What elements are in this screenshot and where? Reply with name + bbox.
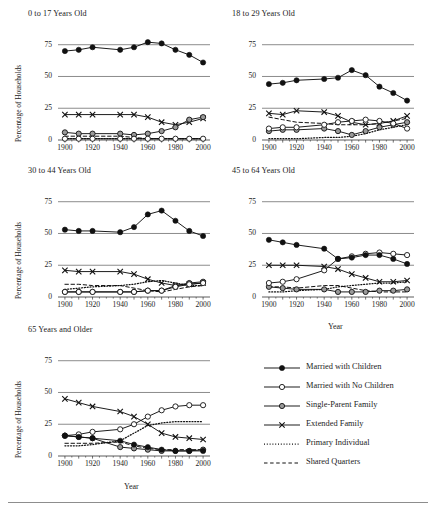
series-married-with-no-children [62,280,205,294]
x-tick-label: 1940 [310,143,338,152]
y-tick-label: 75 [236,197,256,206]
series-single-parent-family [266,284,409,294]
y-tick-label: 25 [236,103,256,112]
series-married-with-no-children [62,136,205,141]
series-primary-individual [269,282,407,292]
legend-item: Married with Children [262,360,432,376]
y-tick-label: 25 [236,260,256,269]
x-axis-label: Year [124,482,139,491]
x-tick-label: 1940 [106,459,134,468]
x-tick-label: 1960 [134,143,162,152]
x-tick-label: 1920 [79,459,107,468]
series-extended-family [62,396,206,442]
y-tick-label: 50 [32,387,52,396]
x-tick-label: 1920 [283,300,311,309]
panel-title: 18 to 29 Years Old [232,9,295,18]
x-tick-label: 1980 [161,300,189,309]
series-single-parent-family [266,120,409,138]
series-shared-quarters [65,136,203,139]
legend-item: Shared Quarters [262,455,432,471]
x-tick-label: 1900 [51,459,79,468]
x-tick-label: 1920 [79,143,107,152]
series-extended-family [62,112,206,128]
y-tick-label: 25 [32,419,52,428]
series-single-parent-family [62,433,205,453]
legend-marker-grey-circle-icon [262,398,302,414]
y-axis-label: Percentage of Households [14,222,23,299]
x-tick-label: 1920 [79,300,107,309]
figure-root: 0 to 17 Years OldPercentage of Household… [0,0,433,512]
series-married-with-no-children [62,403,205,439]
y-tick-label: 0 [32,135,52,144]
y-tick-label: 75 [32,197,52,206]
series-primary-individual [269,125,407,139]
panel-title: 45 to 64 Years Old [232,166,295,175]
y-tick-label: 50 [236,71,256,80]
series-extended-family [62,268,206,289]
x-tick-label: 1940 [310,300,338,309]
series-single-parent-family [62,279,205,294]
y-tick-label: 75 [236,40,256,49]
y-tick-label: 75 [32,356,52,365]
bottom-divider [8,502,428,503]
series-shared-quarters [65,442,203,450]
y-tick-label: 25 [32,103,52,112]
series-shared-quarters [269,117,407,125]
legend-item: Married with No Children [262,379,432,395]
series-primary-individual [65,422,203,446]
x-tick-label: 1960 [134,459,162,468]
legend-marker-filled-circle-icon [262,360,302,376]
series-single-parent-family [62,115,205,138]
series-married-with-children [62,208,205,239]
series-married-with-no-children [266,117,409,131]
y-tick-label: 75 [32,40,52,49]
legend-label: Married with Children [306,362,381,371]
series-shared-quarters [269,286,407,292]
legend: Married with ChildrenMarried with No Chi… [262,360,432,480]
y-axis-label: Percentage of Households [14,381,23,458]
series-married-with-children [266,237,409,266]
x-tick-label: 1940 [106,143,134,152]
x-tick-label: 1980 [161,143,189,152]
x-axis-label: Year [328,322,343,331]
y-tick-label: 25 [32,260,52,269]
legend-marker-open-circle-icon [262,379,302,395]
panel-title: 65 Years and Older [28,325,93,334]
x-tick-label: 1960 [338,300,366,309]
x-tick-label: 1920 [283,143,311,152]
x-tick-label: 1900 [255,143,283,152]
series-married-with-children [62,433,205,453]
x-tick-label: 2000 [393,143,421,152]
x-tick-label: 2000 [189,300,217,309]
series-extended-family [266,263,410,285]
legend-item: Primary Individual [262,436,432,452]
legend-label: Single-Parent Family [306,400,377,409]
x-tick-label: 1900 [51,300,79,309]
y-tick-label: 50 [32,71,52,80]
series-married-with-no-children [266,250,409,286]
legend-label: Married with No Children [306,381,394,390]
y-tick-label: 0 [32,292,52,301]
y-tick-label: 50 [236,228,256,237]
panel-title: 0 to 17 Years Old [28,9,87,18]
y-axis-label: Percentage of Households [14,65,23,142]
y-tick-label: 50 [32,228,52,237]
legend-marker-cross-icon [262,417,302,433]
legend-item: Single-Parent Family [262,398,432,414]
series-shared-quarters [65,284,203,292]
series-married-with-children [266,68,409,104]
legend-label: Shared Quarters [306,457,360,466]
series-primary-individual [65,280,203,289]
x-tick-label: 1980 [365,143,393,152]
y-tick-label: 0 [236,292,256,301]
x-tick-label: 1960 [134,300,162,309]
x-tick-label: 2000 [189,459,217,468]
series-extended-family [266,108,410,127]
panel-title: 30 to 44 Years Old [28,166,91,175]
x-tick-label: 1940 [106,300,134,309]
legend-label: Extended Family [306,419,363,428]
series-married-with-children [62,40,205,66]
x-tick-label: 2000 [189,143,217,152]
x-tick-label: 1960 [338,143,366,152]
legend-label: Primary Individual [306,438,370,447]
